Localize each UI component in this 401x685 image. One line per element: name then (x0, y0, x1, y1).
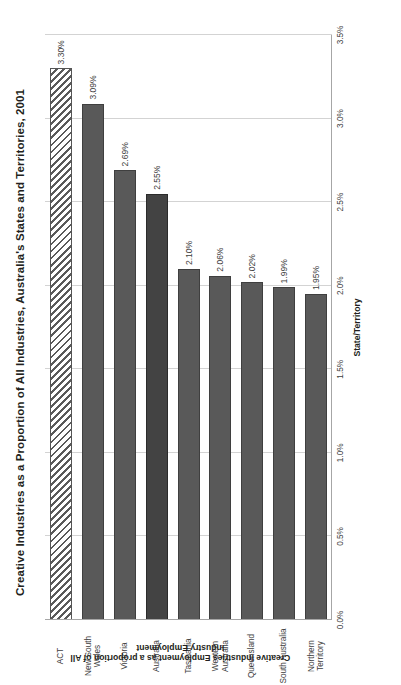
value-tick-label: 0.0% (336, 611, 345, 630)
bar-row: 2.06% (209, 35, 231, 620)
value-axis-title: Creative Industries Employment as a prop… (60, 643, 300, 664)
bar-value-label: 2.06% (215, 248, 225, 272)
rotated-figure-wrapper: Creative Industries as a Proportion of A… (0, 0, 401, 685)
bar-value-label: 2.69% (120, 142, 130, 166)
value-axis-line (45, 619, 332, 620)
bar-row: 3.09% (82, 35, 104, 620)
bar[interactable]: 3.09% (82, 104, 104, 620)
value-tick-label: 3.5% (336, 26, 345, 45)
chart-page: Creative Industries as a Proportion of A… (0, 0, 401, 685)
chart-title: Creative Industries as a Proportion of A… (14, 0, 26, 685)
category-tick-label: Northern Territory (307, 627, 326, 685)
bar-row: 2.55% (146, 35, 168, 620)
bar[interactable]: 2.55% (146, 194, 168, 620)
bar-value-label: 2.55% (152, 166, 162, 190)
value-tick-label: 2.0% (336, 276, 345, 295)
value-tick-label: 1.5% (336, 360, 345, 379)
bar-row: 1.95% (305, 35, 327, 620)
chart-figure: Creative Industries as a Proportion of A… (0, 0, 401, 685)
bar-value-label: 1.99% (279, 259, 289, 283)
bar[interactable]: 2.10% (178, 269, 200, 620)
bars-layer: 3.30%3.09%2.69%2.55%2.10%2.06%2.02%1.99%… (45, 35, 332, 620)
category-axis-title: State/Territory (352, 35, 362, 620)
bar-value-label: 3.30% (56, 40, 66, 64)
bar[interactable]: 1.99% (273, 287, 295, 620)
bar-row: 2.02% (241, 35, 263, 620)
bar-row: 3.30% (50, 35, 72, 620)
value-tick-label: 0.5% (336, 527, 345, 546)
bar-value-label: 1.95% (311, 266, 321, 290)
bar-value-label: 2.02% (247, 254, 257, 278)
bar-row: 2.10% (178, 35, 200, 620)
category-axis-line (331, 35, 332, 620)
bar[interactable]: 2.02% (241, 282, 263, 620)
bar-row: 1.99% (273, 35, 295, 620)
bar[interactable]: 3.30% (50, 68, 72, 620)
bar-row: 2.69% (114, 35, 136, 620)
bar[interactable]: 1.95% (305, 294, 327, 620)
value-tick-label: 3.0% (336, 109, 345, 128)
bar-value-label: 3.09% (88, 75, 98, 99)
bar[interactable]: 2.06% (209, 276, 231, 620)
bar[interactable]: 2.69% (114, 170, 136, 620)
value-axis-tick-labels: 0.0%0.5%1.0%1.5%2.0%2.5%3.0%3.5% (334, 35, 350, 620)
bar-value-label: 2.10% (184, 241, 194, 265)
value-tick-label: 2.5% (336, 193, 345, 212)
value-tick-label: 1.0% (336, 444, 345, 463)
plot-area: 3.30%3.09%2.69%2.55%2.10%2.06%2.02%1.99%… (45, 35, 332, 620)
